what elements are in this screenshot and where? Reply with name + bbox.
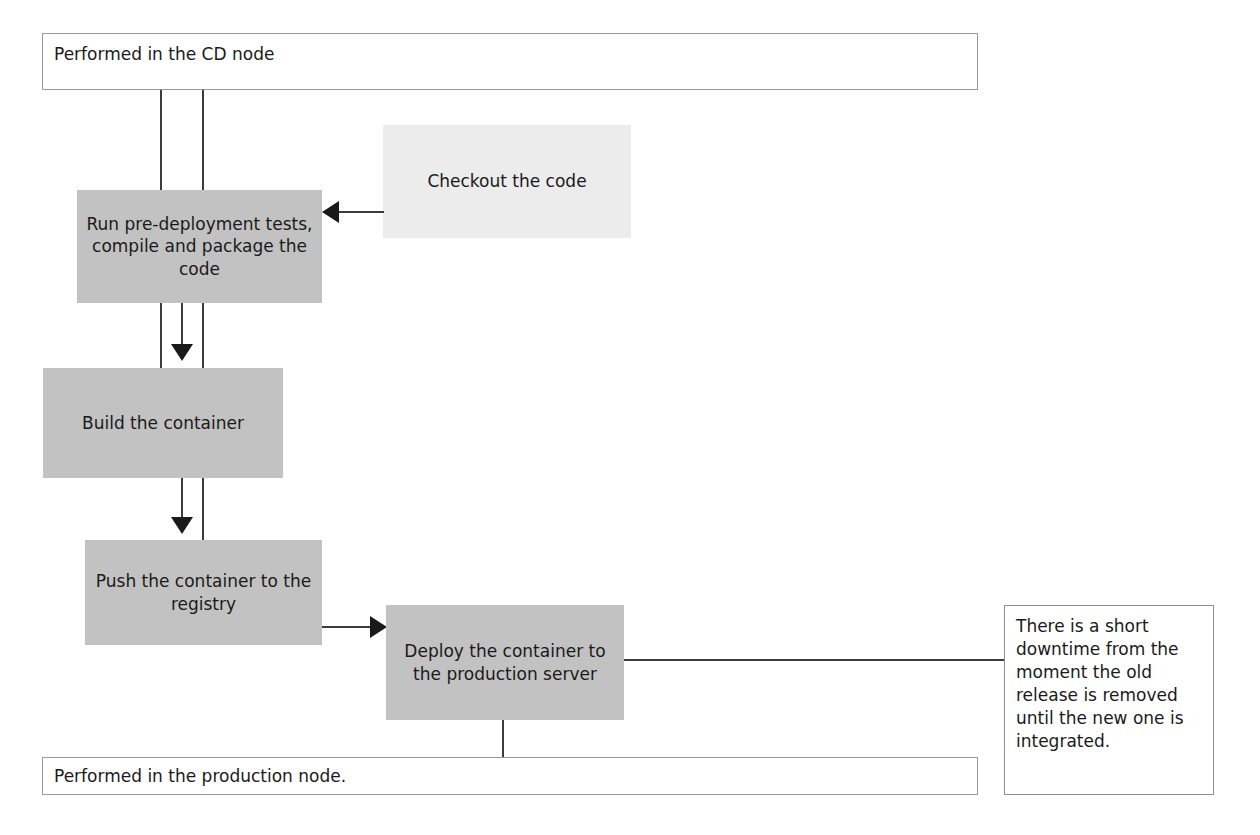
connector-deploy-to-production-node (502, 720, 504, 757)
connector-deploy-to-downtime-note (624, 659, 1005, 661)
arrowhead-into-pre-deployment (322, 201, 339, 223)
node-run-pre-deployment-tests-label: Run pre-deployment tests, compile and pa… (83, 213, 316, 280)
connector-build-to-push (181, 478, 183, 518)
node-checkout-the-code[interactable]: Checkout the code (383, 125, 631, 238)
node-checkout-the-code-label: Checkout the code (427, 170, 586, 192)
node-run-pre-deployment-tests[interactable]: Run pre-deployment tests, compile and pa… (77, 190, 322, 303)
node-push-the-container-to-the-registry[interactable]: Push the container to the registry (85, 540, 322, 645)
node-build-the-container-label: Build the container (82, 412, 244, 434)
arrowhead-into-build (171, 344, 193, 361)
node-build-the-container[interactable]: Build the container (43, 368, 283, 478)
node-deploy-the-container-label: Deploy the container to the production s… (392, 640, 618, 685)
region-production-node-label: Performed in the production node. (54, 766, 346, 786)
diagram-canvas: Performed in the CD node Performed in th… (0, 0, 1260, 835)
arrowhead-into-deploy (370, 616, 387, 638)
arrowhead-into-push (171, 517, 193, 534)
note-downtime-label: There is a short downtime from the momen… (1016, 616, 1184, 751)
region-cd-node-label: Performed in the CD node (54, 44, 274, 64)
connector-checkout-to-pre-deployment (336, 211, 384, 213)
connector-pre-deployment-to-build (181, 303, 183, 345)
connector-push-to-deploy (322, 626, 372, 628)
node-push-the-container-to-the-registry-label: Push the container to the registry (91, 570, 316, 615)
note-downtime: There is a short downtime from the momen… (1004, 605, 1214, 795)
node-deploy-the-container[interactable]: Deploy the container to the production s… (386, 605, 624, 720)
